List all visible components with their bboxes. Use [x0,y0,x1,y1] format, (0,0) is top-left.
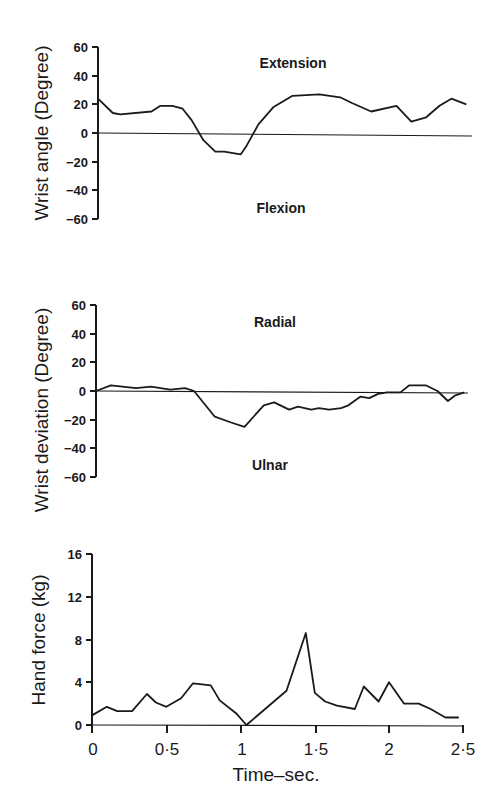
tick-label: −20 [66,155,88,170]
hand-force-panel: Hand force (kg) 16 12 8 4 0 0 0·5 1 1·5 … [28,547,475,785]
tick-label: −40 [66,183,88,198]
tick-label: 8 [75,633,82,648]
tick-label: 0 [81,126,88,141]
wrist-angle-ylabel: Wrist angle (Degree) [31,46,52,221]
hand-force-xticks: 0 0·5 1 1·5 2 2·5 [88,725,475,759]
hand-force-x-axis [92,725,464,726]
wrist-angle-ticks: 60 40 20 0 −20 −40 −60 [66,40,98,227]
tick-label: 0 [79,384,86,399]
wrist-angle-panel: Wrist angle (Degree) 60 40 20 0 −20 −40 … [31,40,472,227]
flexion-label: Flexion [256,200,305,216]
hand-force-yticks: 16 12 8 4 0 [68,547,92,733]
x-tick-label: 2 [384,740,393,759]
tick-label: −40 [64,441,86,456]
tick-label: 20 [72,355,86,370]
tick-label: 60 [74,40,88,55]
wrist-deviation-ticks: 60 40 20 0 −20 −40 −60 [64,298,96,485]
tick-label: 40 [74,69,88,84]
tick-label: 40 [72,327,86,342]
wrist-deviation-ylabel: Wrist deviation (Degree) [31,308,52,513]
extension-label: Extension [260,55,327,71]
x-axis-label: Time–sec. [233,764,320,785]
radial-label: Radial [254,314,296,330]
figure: Wrist angle (Degree) 60 40 20 0 −20 −40 … [0,0,496,800]
tick-label: −20 [64,413,86,428]
hand-force-line [92,633,459,725]
tick-label: 16 [68,547,82,562]
tick-label: 60 [72,298,86,313]
wrist-deviation-panel: Wrist deviation (Degree) 60 40 20 0 −20 … [31,298,468,512]
tick-label: −60 [64,470,86,485]
hand-force-ylabel: Hand force (kg) [28,575,49,706]
x-tick-label: 1·5 [304,740,329,759]
wrist-angle-line [98,94,466,154]
wrist-angle-zero-line [98,133,472,136]
x-tick-label: 0·5 [155,740,180,759]
tick-label: 4 [75,675,83,690]
ulnar-label: Ulnar [252,457,288,473]
x-tick-label: 2·5 [451,740,476,759]
x-tick-label: 1 [237,740,246,759]
tick-label: 20 [74,97,88,112]
x-tick-label: 0 [88,740,97,759]
tick-label: 0 [75,718,82,733]
tick-label: −60 [66,212,88,227]
wrist-deviation-zero-line [96,391,468,393]
tick-label: 12 [68,590,82,605]
